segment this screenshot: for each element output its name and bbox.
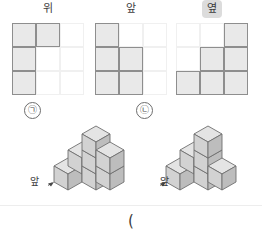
grid-cell bbox=[60, 47, 84, 71]
grid-cell bbox=[224, 47, 248, 71]
front-direction-label-b: 앞 bbox=[160, 176, 169, 188]
side-view-label: 옆 bbox=[202, 0, 222, 18]
grid-cell bbox=[95, 71, 119, 95]
grid-cell bbox=[36, 23, 60, 47]
answer-parenthesis: ( bbox=[0, 212, 262, 230]
orthographic-views: 위 앞 옆 bbox=[0, 0, 262, 100]
front-view-grid bbox=[95, 23, 167, 95]
grid-cell bbox=[200, 23, 224, 47]
top-view-block: 위 bbox=[12, 0, 84, 95]
grid-cell bbox=[200, 71, 224, 95]
grid-cell bbox=[119, 47, 143, 71]
grid-cell bbox=[143, 71, 167, 95]
grid-cell bbox=[143, 47, 167, 71]
grid-cell bbox=[143, 23, 167, 47]
grid-cell bbox=[12, 47, 36, 71]
front-arrow-icon bbox=[48, 182, 54, 194]
front-direction-label-a: 앞 bbox=[30, 176, 39, 188]
grid-cell bbox=[176, 47, 200, 71]
grid-cell bbox=[36, 47, 60, 71]
top-view-grid bbox=[12, 23, 84, 95]
grid-cell bbox=[224, 23, 248, 47]
grid-cell bbox=[176, 71, 200, 95]
grid-cell bbox=[176, 23, 200, 47]
figure-a bbox=[48, 112, 158, 202]
front-view-label: 앞 bbox=[95, 0, 167, 18]
grid-cell bbox=[12, 23, 36, 47]
grid-cell bbox=[60, 23, 84, 47]
side-view-block: 옆 bbox=[176, 0, 248, 95]
grid-cell bbox=[224, 71, 248, 95]
front-view-block: 앞 bbox=[95, 0, 167, 95]
grid-cell bbox=[200, 47, 224, 71]
bottom-divider bbox=[0, 205, 262, 206]
grid-cell bbox=[119, 71, 143, 95]
grid-cell bbox=[12, 71, 36, 95]
top-view-label: 위 bbox=[12, 0, 84, 18]
figure-b-isometric bbox=[160, 112, 262, 202]
grid-cell bbox=[119, 23, 143, 47]
side-view-grid bbox=[176, 23, 248, 95]
figure-b bbox=[160, 112, 262, 202]
figure-tag-a: ㉠ bbox=[24, 102, 41, 119]
figure-a-isometric bbox=[48, 112, 158, 202]
grid-cell bbox=[95, 47, 119, 71]
grid-cell bbox=[95, 23, 119, 47]
grid-cell bbox=[60, 71, 84, 95]
grid-cell bbox=[36, 71, 60, 95]
